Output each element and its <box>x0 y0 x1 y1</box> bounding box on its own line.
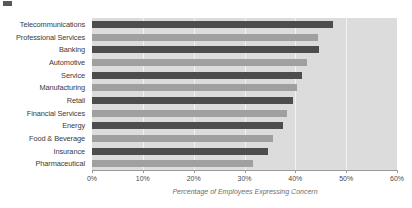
bar-row <box>92 119 397 132</box>
bar-chart-figure: TelecommunicationsProfessional ServicesB… <box>0 0 412 208</box>
value-axis-tick-label: 10% <box>136 175 150 182</box>
bar-row <box>92 31 397 44</box>
value-axis-tick-label: 50% <box>339 175 353 182</box>
value-axis-tick-label: 40% <box>288 175 302 182</box>
plot-area <box>92 18 397 170</box>
bar <box>92 59 307 66</box>
bar-row <box>92 145 397 158</box>
bar-row <box>92 69 397 82</box>
category-axis-label: Automotive <box>0 56 89 69</box>
category-axis-label: Pharmaceutical <box>0 157 89 170</box>
bar <box>92 72 302 79</box>
category-axis-label: Energy <box>0 119 89 132</box>
bar <box>92 122 283 129</box>
category-axis: TelecommunicationsProfessional ServicesB… <box>0 18 89 170</box>
category-axis-label: Food & Beverage <box>0 132 89 145</box>
category-axis-label: Banking <box>0 43 89 56</box>
category-axis-label: Retail <box>0 94 89 107</box>
bar-row <box>92 107 397 120</box>
value-axis-tick <box>397 170 398 173</box>
bar <box>92 34 318 41</box>
value-axis-tick <box>295 170 296 173</box>
category-axis-label: Manufacturing <box>0 81 89 94</box>
category-axis-label: Insurance <box>0 145 89 158</box>
bars-group <box>92 18 397 170</box>
category-axis-label: Financial Services <box>0 107 89 120</box>
bar <box>92 160 253 167</box>
bar-row <box>92 56 397 69</box>
value-axis-tick-label: 0% <box>87 175 97 182</box>
value-axis-tick <box>143 170 144 173</box>
bar-row <box>92 132 397 145</box>
bar <box>92 46 319 53</box>
bar-row <box>92 43 397 56</box>
value-axis-tick <box>194 170 195 173</box>
bar <box>92 84 297 91</box>
category-axis-label: Telecommunications <box>0 18 89 31</box>
value-axis-tick-label: 20% <box>187 175 201 182</box>
scan-artifact-mark <box>3 1 12 6</box>
value-axis-tick-label: 60% <box>390 175 404 182</box>
category-axis-label: Professional Services <box>0 31 89 44</box>
value-axis-title: Percentage of Employees Expressing Conce… <box>92 188 398 195</box>
bar <box>92 110 287 117</box>
bar <box>92 97 293 104</box>
bar <box>92 148 268 155</box>
category-axis-label: Service <box>0 69 89 82</box>
value-axis-tick <box>92 170 93 173</box>
bar-row <box>92 157 397 170</box>
bar-row <box>92 18 397 31</box>
bar <box>92 21 333 28</box>
value-axis-tick <box>245 170 246 173</box>
bar <box>92 135 273 142</box>
value-axis-tick-label: 30% <box>237 175 251 182</box>
bar-row <box>92 94 397 107</box>
value-axis-tick <box>346 170 347 173</box>
bar-row <box>92 81 397 94</box>
